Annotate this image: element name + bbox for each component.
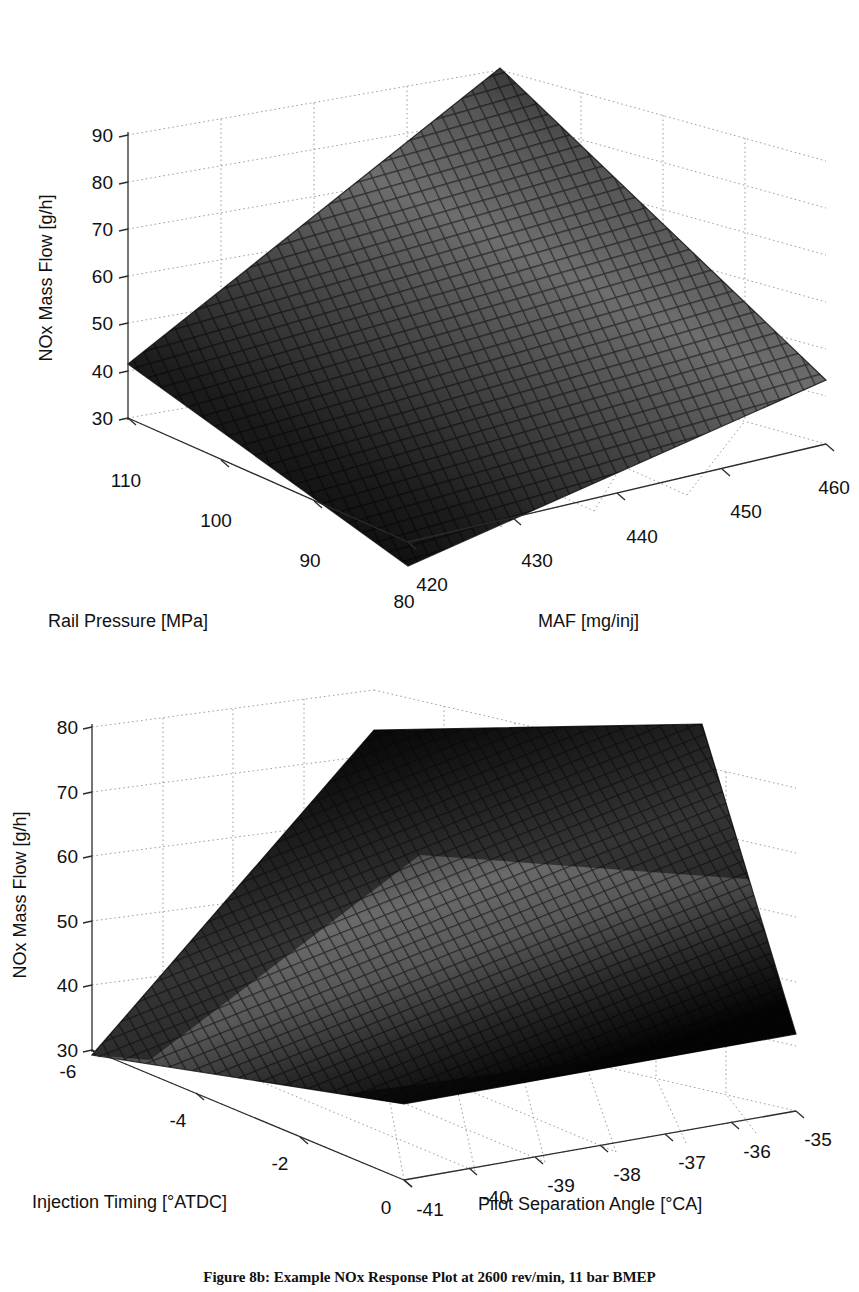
y-tick-top-4: 460 <box>818 477 850 498</box>
y-tick-bottom-3: -38 <box>613 1164 640 1185</box>
y-tick-bottom-2: -39 <box>547 1175 574 1196</box>
x-tick-bottom-1: -4 <box>170 1110 187 1131</box>
z-tick-bottom-1: 40 <box>57 975 78 996</box>
y-tick-bottom-4: -37 <box>678 1152 705 1173</box>
x-tick-bottom-0: -6 <box>60 1061 77 1082</box>
y-tick-bottom-0: -41 <box>416 1199 443 1220</box>
surface-mesh-top <box>128 68 826 566</box>
x-tick-top-0: 110 <box>111 470 141 491</box>
plot-bottom-svg: 80 70 60 50 40 30 NOx Mass Flow [g/h] -6… <box>0 630 859 1230</box>
y-tick-bottom-5: -36 <box>743 1141 770 1162</box>
x-tick-bottom-2: -2 <box>272 1153 289 1174</box>
y-tick-top-3: 450 <box>730 501 762 522</box>
plot-top-svg: 90 80 70 60 50 40 30 NOx Mass Flow [g/h]… <box>0 0 859 640</box>
x-axis-label-bottom: Injection Timing [°ATDC] <box>32 1192 227 1212</box>
z-axis-label-bottom: NOx Mass Flow [g/h] <box>10 811 30 978</box>
y-tick-top-1: 430 <box>521 550 553 571</box>
x-axis-label-top: Rail Pressure [MPa] <box>48 611 208 631</box>
y-axis-label-bottom: Pilot Separation Angle [°CA] <box>478 1194 702 1214</box>
z-tick-bottom-3: 60 <box>57 846 78 867</box>
z-tick-top-2: 50 <box>92 313 113 334</box>
x-axis-label-bottom-text: Injection Timing [°ATDC] <box>32 1192 227 1212</box>
figure-caption: Figure 8b: Example NOx Response Plot at … <box>0 1262 859 1292</box>
surface-plot-top: 90 80 70 60 50 40 30 NOx Mass Flow [g/h]… <box>0 0 859 640</box>
y-axis-label-top: MAF [mg/inj] <box>538 611 639 631</box>
z-axis-label-top: NOx Mass Flow [g/h] <box>36 194 56 361</box>
svg-text:Pilot Separation Angle [°CA]: Pilot Separation Angle [°CA] <box>478 1194 702 1214</box>
y-axis-label-bottom-text: Pilot Separation Angle [°CA] <box>478 1194 702 1214</box>
y-axis-bottom: -41 -40 -39 -38 -37 -36 -35 Pilot Separa… <box>404 1111 832 1220</box>
y-tick-top-2: 440 <box>626 526 658 547</box>
x-tick-top-1: 100 <box>200 510 232 531</box>
z-tick-bottom-0: 30 <box>57 1040 78 1061</box>
z-tick-bottom-4: 70 <box>57 782 78 803</box>
z-tick-top-4: 70 <box>92 219 113 240</box>
x-tick-bottom-3: 0 <box>381 1197 392 1218</box>
z-tick-top-1: 40 <box>92 361 113 382</box>
y-tick-top-0: 420 <box>416 574 448 595</box>
surface-plot-bottom: 80 70 60 50 40 30 NOx Mass Flow [g/h] -6… <box>0 630 859 1230</box>
z-tick-bottom-5: 80 <box>57 717 78 738</box>
z-tick-top-6: 90 <box>92 125 113 146</box>
x-tick-top-3: 80 <box>393 591 414 612</box>
z-axis-bottom: 80 70 60 50 40 30 NOx Mass Flow [g/h] <box>10 717 92 1061</box>
z-tick-top-5: 80 <box>92 172 113 193</box>
figure-page: 90 80 70 60 50 40 30 NOx Mass Flow [g/h]… <box>0 0 859 1292</box>
svg-text:Injection Timing [°ATDC]: Injection Timing [°ATDC] <box>32 1192 227 1212</box>
z-tick-top-0: 30 <box>92 408 113 429</box>
z-tick-top-3: 60 <box>92 266 113 287</box>
z-axis-top: 90 80 70 60 50 40 30 NOx Mass Flow [g/h] <box>36 125 128 429</box>
x-tick-top-2: 90 <box>299 550 320 571</box>
z-tick-bottom-2: 50 <box>57 911 78 932</box>
y-tick-bottom-6: -35 <box>804 1129 831 1150</box>
surface-mesh-bottom <box>92 724 796 1104</box>
